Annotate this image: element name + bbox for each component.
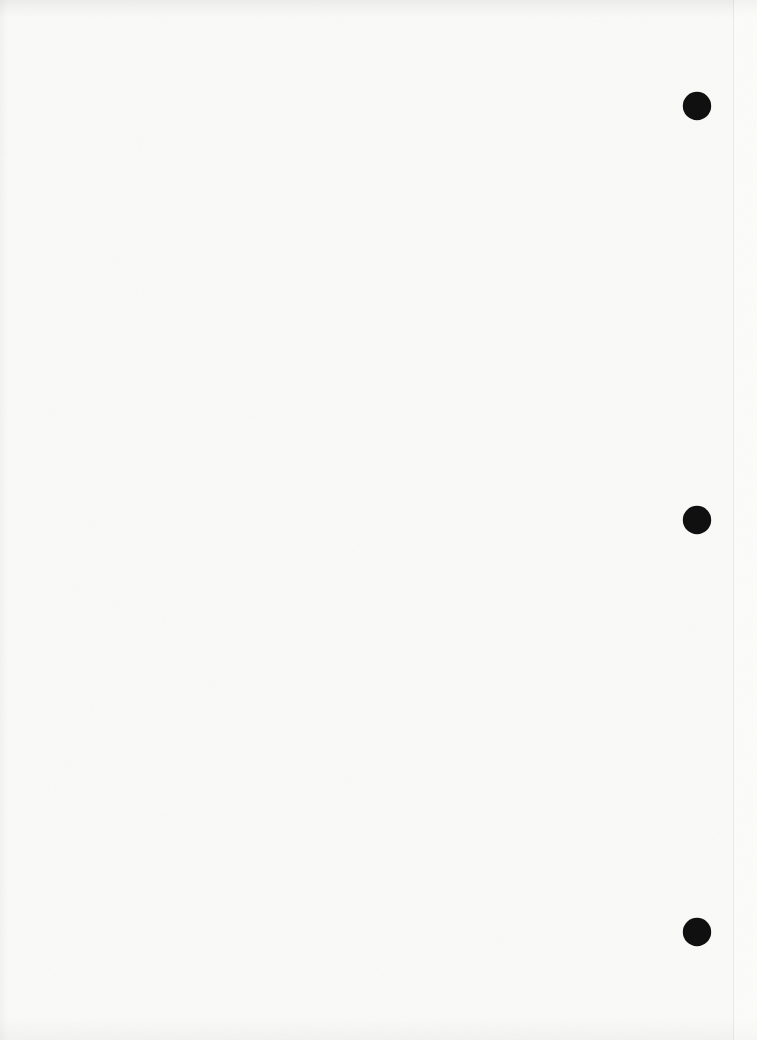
scan-shadow-top-edge <box>0 0 757 18</box>
punch-hole-bottom-icon <box>682 917 712 947</box>
paper-texture <box>0 0 757 1040</box>
page-right-margin <box>734 0 757 1040</box>
punch-hole-top-icon <box>682 91 712 121</box>
page-edge-line <box>733 0 734 1040</box>
scan-shadow-left-edge <box>0 0 8 1040</box>
scanned-blank-page <box>0 0 757 1040</box>
scan-shadow-bottom-edge <box>0 1018 757 1040</box>
punch-hole-middle-icon <box>682 505 712 535</box>
